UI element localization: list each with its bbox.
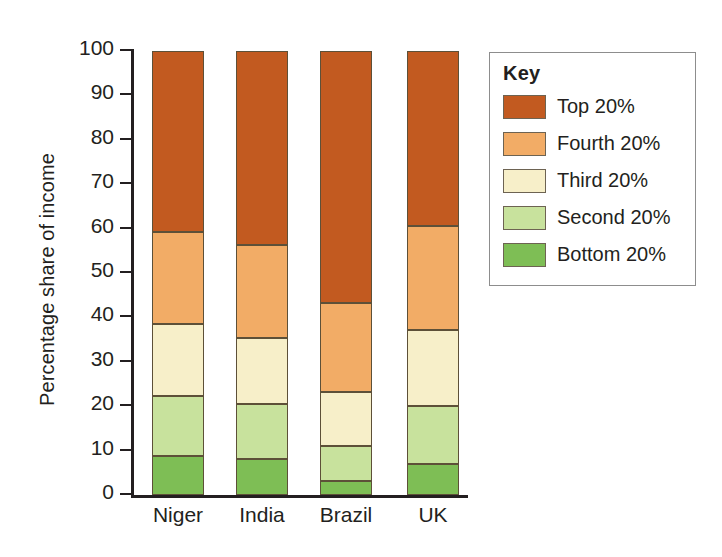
legend-item-second-20[interactable]: Second 20% <box>503 199 683 236</box>
bar-segment-uk-third-20[interactable] <box>407 330 459 406</box>
y-axis-title: Percentage share of income <box>36 115 59 445</box>
bar-segment-india-bottom-20[interactable] <box>236 459 288 495</box>
y-tick-label-60: 60 <box>91 215 114 237</box>
bar-segment-brazil-bottom-20[interactable] <box>320 481 372 495</box>
legend-item-bottom-20[interactable]: Bottom 20% <box>503 236 683 273</box>
bar-segment-brazil-second-20[interactable] <box>320 446 372 481</box>
y-tick-label-20: 20 <box>91 392 114 414</box>
legend-item-label: Third 20% <box>557 169 648 192</box>
bar-segment-uk-fourth-20[interactable] <box>407 226 459 329</box>
bar-india[interactable] <box>236 51 288 495</box>
bar-segment-niger-bottom-20[interactable] <box>152 456 204 495</box>
legend-item-fourth-20[interactable]: Fourth 20% <box>503 125 683 162</box>
stacked-bar-chart: Percentage share of income 1009080706050… <box>0 0 722 557</box>
legend-item-label: Fourth 20% <box>557 132 660 155</box>
bar-segment-brazil-third-20[interactable] <box>320 392 372 446</box>
bar-segment-niger-top-20[interactable] <box>152 51 204 232</box>
bar-segment-brazil-fourth-20[interactable] <box>320 303 372 392</box>
bar-segment-india-fourth-20[interactable] <box>236 245 288 339</box>
y-axis-line <box>131 49 134 497</box>
legend-item-third-20[interactable]: Third 20% <box>503 162 683 199</box>
legend-item-label: Second 20% <box>557 206 670 229</box>
legend-swatch-icon <box>503 132 546 156</box>
legend-swatch-icon <box>503 206 546 230</box>
bar-segment-uk-top-20[interactable] <box>407 51 459 226</box>
bar-segment-brazil-top-20[interactable] <box>320 51 372 303</box>
bar-brazil[interactable] <box>320 51 372 495</box>
bar-segment-niger-fourth-20[interactable] <box>152 232 204 324</box>
y-tick-80: 80 <box>120 138 131 140</box>
bar-segment-niger-second-20[interactable] <box>152 396 204 455</box>
y-tick-20: 20 <box>120 404 131 406</box>
y-tick-0: 0 <box>120 493 131 495</box>
y-tick-70: 70 <box>120 182 131 184</box>
y-tick-label-40: 40 <box>91 303 114 325</box>
bar-segment-uk-second-20[interactable] <box>407 406 459 464</box>
legend-items: Top 20%Fourth 20%Third 20%Second 20%Bott… <box>503 88 683 273</box>
bar-segment-india-third-20[interactable] <box>236 338 288 404</box>
bar-segment-niger-third-20[interactable] <box>152 324 204 396</box>
y-tick-label-80: 80 <box>91 126 114 148</box>
bar-uk[interactable] <box>407 51 459 495</box>
legend-swatch-icon <box>503 95 546 119</box>
y-tick-label-50: 50 <box>91 259 114 281</box>
y-tick-90: 90 <box>120 93 131 95</box>
y-tick-label-30: 30 <box>91 348 114 370</box>
y-tick-40: 40 <box>120 315 131 317</box>
legend-item-top-20[interactable]: Top 20% <box>503 88 683 125</box>
y-tick-50: 50 <box>120 271 131 273</box>
legend-title: Key <box>503 62 683 85</box>
bar-segment-india-top-20[interactable] <box>236 51 288 245</box>
y-tick-label-70: 70 <box>91 170 114 192</box>
legend-swatch-icon <box>503 243 546 267</box>
x-axis-label-uk: UK <box>378 503 488 527</box>
y-tick-label-90: 90 <box>91 81 114 103</box>
bar-niger[interactable] <box>152 51 204 495</box>
bar-segment-uk-bottom-20[interactable] <box>407 464 459 495</box>
bar-segment-india-second-20[interactable] <box>236 404 288 459</box>
y-tick-label-100: 100 <box>79 37 114 59</box>
y-tick-label-0: 0 <box>102 481 114 503</box>
y-tick-label-10: 10 <box>91 437 114 459</box>
plot-area: 1009080706050403020100 NigerIndiaBrazilU… <box>131 51 461 495</box>
y-tick-60: 60 <box>120 227 131 229</box>
legend-item-label: Bottom 20% <box>557 243 666 266</box>
y-tick-10: 10 <box>120 449 131 451</box>
x-axis-line <box>131 495 468 498</box>
y-tick-30: 30 <box>120 360 131 362</box>
legend-box: Key Top 20%Fourth 20%Third 20%Second 20%… <box>489 52 696 286</box>
legend-swatch-icon <box>503 169 546 193</box>
legend-item-label: Top 20% <box>557 95 635 118</box>
y-tick-100: 100 <box>120 49 131 51</box>
